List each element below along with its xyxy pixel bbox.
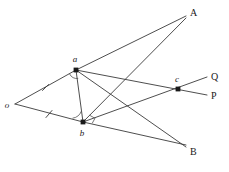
label-B: B: [190, 146, 197, 157]
tick-on-oa: [43, 85, 49, 91]
label-P: P: [211, 90, 217, 101]
segment-o-to-b: [15, 104, 83, 122]
segment-b-to-Q: [83, 77, 207, 122]
label-A: A: [190, 7, 198, 18]
segment-b-to-B: [83, 122, 186, 145]
geometry-figure: o a b c A B Q P: [0, 0, 229, 172]
geometry-canvas: o a b c A B Q P: [0, 0, 229, 172]
vertex-dot-c: [176, 87, 181, 92]
vertex-dot-a: [74, 68, 79, 73]
label-b: b: [80, 128, 85, 138]
segment-a-to-A: [76, 16, 186, 70]
segment-a-to-P: [76, 70, 207, 95]
label-a: a: [73, 54, 78, 64]
label-Q: Q: [211, 71, 219, 82]
segment-b-to-A: [83, 18, 186, 122]
label-o: o: [5, 100, 10, 110]
labels-group: o a b c A B Q P: [5, 7, 219, 157]
angle-arc-at-b: [73, 111, 82, 118]
label-c: c: [175, 74, 179, 84]
vertex-dot-b: [81, 120, 86, 125]
segment-a-to-B: [76, 70, 186, 147]
